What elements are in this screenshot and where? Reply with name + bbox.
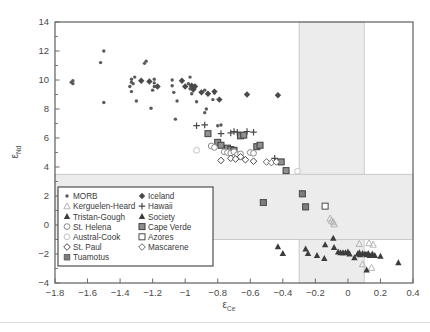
legend: MORBKerguelen-HeardTristan-GoughSt. Hele…	[58, 187, 213, 266]
data-point	[130, 90, 133, 93]
data-point	[280, 250, 286, 256]
legend-label-tuamotus: Tuamotus	[73, 253, 109, 262]
data-point	[143, 62, 146, 65]
y-tick-label: 4	[44, 161, 49, 172]
data-point	[174, 117, 177, 120]
series-morb	[70, 49, 223, 127]
data-point	[170, 78, 173, 81]
legend-label-hawaii: Hawaii	[148, 202, 173, 211]
data-point	[151, 88, 154, 91]
data-point	[218, 142, 224, 148]
y-tick-label: −4	[38, 277, 49, 288]
figure-container: −1.8−1.6−1.4−1.2−1−0.8−0.6−0.4−0.200.20.…	[0, 0, 430, 332]
data-point	[102, 101, 105, 104]
y-tick-label: 8	[44, 103, 49, 114]
data-point	[188, 75, 191, 78]
data-point	[227, 130, 234, 137]
data-point	[275, 92, 281, 98]
data-point	[241, 132, 247, 138]
data-point	[179, 78, 185, 84]
data-point	[153, 81, 156, 84]
legend-label-kerguelen-heard: Kerguelen-Heard	[73, 202, 136, 211]
data-point	[146, 78, 152, 84]
data-point	[102, 49, 105, 52]
x-tick-label: −0.6	[241, 287, 260, 298]
data-point	[218, 130, 225, 137]
data-point	[149, 107, 152, 110]
legend-label-cape-verde: Cape Verde	[148, 223, 192, 232]
data-point	[216, 124, 219, 127]
data-point	[201, 122, 208, 129]
legend-marker-cape-verde	[139, 224, 145, 230]
data-point	[257, 142, 263, 148]
legend-label-morb: MORB	[73, 192, 98, 201]
legend-label-austral-cook: Austral-Cook	[73, 233, 121, 242]
data-point	[260, 200, 266, 206]
data-point	[138, 78, 144, 84]
data-point	[203, 111, 206, 114]
x-tick-label: −1.4	[111, 287, 130, 298]
data-point	[170, 84, 173, 87]
data-point	[70, 80, 73, 83]
legend-label-st-paul: St. Paul	[73, 243, 102, 252]
data-point	[193, 122, 200, 129]
data-point	[395, 259, 401, 265]
data-point	[303, 204, 309, 210]
data-point	[128, 85, 131, 88]
shaded-band-vertical-band	[299, 22, 364, 283]
data-point	[275, 243, 281, 249]
x-tick-label: 0	[345, 287, 350, 298]
y-axis-title: εNd	[9, 145, 22, 158]
legend-marker-st-helena	[64, 224, 70, 230]
legend-label-st-helena: St. Helena	[73, 223, 112, 232]
data-point	[153, 78, 156, 81]
legend-label-azores: Azores	[148, 233, 173, 242]
x-tick-label: −0.8	[208, 287, 227, 298]
data-point	[205, 91, 211, 97]
x-tick-label: −0.4	[273, 287, 292, 298]
y-tick-label: −2	[38, 248, 49, 259]
data-point	[322, 203, 328, 209]
legend-marker-azores	[139, 234, 145, 240]
series-azores	[322, 203, 328, 209]
data-point	[172, 91, 175, 94]
data-point	[218, 157, 225, 164]
data-point	[231, 128, 238, 135]
series-st-helena	[208, 143, 256, 158]
data-point	[251, 150, 257, 156]
data-point	[219, 123, 222, 126]
y-tick-label: 14	[38, 16, 49, 27]
data-point	[211, 88, 217, 94]
x-tick-label: 0.2	[374, 287, 387, 298]
data-point	[216, 96, 222, 102]
data-point	[368, 264, 374, 270]
bottom-divider	[0, 322, 430, 323]
data-point	[130, 78, 133, 81]
x-tick-label: −1.8	[46, 287, 65, 298]
x-tick-label: 0.4	[406, 287, 419, 298]
data-point	[99, 61, 102, 64]
data-point	[244, 91, 250, 97]
data-point	[154, 83, 160, 89]
data-point	[205, 131, 211, 137]
data-point	[250, 129, 257, 136]
data-point	[133, 75, 136, 78]
data-point	[211, 98, 214, 101]
data-point	[300, 191, 306, 197]
data-point	[195, 100, 198, 103]
legend-marker-austral-cook	[64, 234, 70, 240]
y-tick-label: 6	[44, 132, 49, 143]
legend-marker-tuamotus	[64, 254, 70, 260]
data-point	[212, 145, 218, 151]
data-point	[295, 168, 301, 174]
legend-label-tristan-gough: Tristan-Gough	[73, 213, 125, 222]
y-axis-title-text: εNd	[9, 145, 22, 158]
data-point	[131, 82, 134, 85]
x-tick-label: −1	[180, 287, 191, 298]
scatter-plot: −1.8−1.6−1.4−1.2−1−0.8−0.6−0.4−0.200.20.…	[0, 0, 430, 332]
x-axis-title: εCe	[223, 299, 236, 312]
x-tick-label: −1.6	[78, 287, 97, 298]
data-point	[205, 107, 208, 110]
x-tick-label: −1.2	[143, 287, 162, 298]
y-tick-label: 10	[38, 74, 49, 85]
